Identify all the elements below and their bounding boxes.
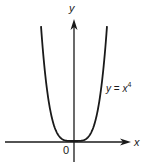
curve-equation-label: y = x4 [106, 81, 131, 94]
eq-exponent: 4 [127, 81, 131, 88]
origin-label: 0 [63, 145, 69, 156]
eq-equals: = [111, 83, 122, 94]
x-axis-label: x [134, 137, 140, 148]
y-axis-label: y [69, 3, 75, 14]
